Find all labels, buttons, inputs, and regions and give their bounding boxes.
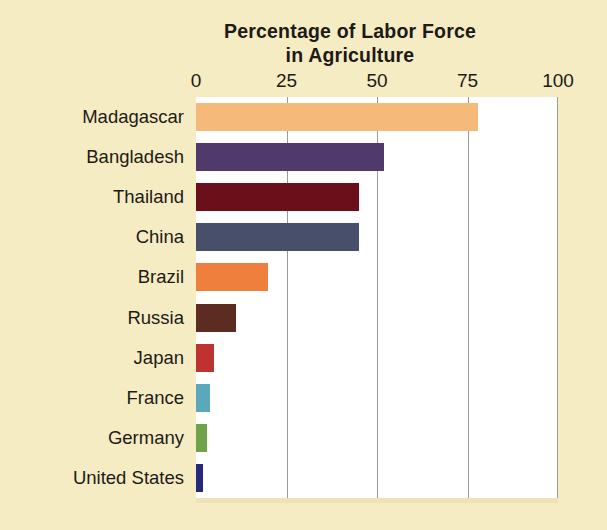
bar-row: [196, 458, 558, 498]
x-tick-label-50: 50: [366, 70, 387, 92]
bar-germany[interactable]: [196, 424, 207, 452]
y-label-united-states: United States: [0, 458, 190, 498]
bar-row: [196, 298, 558, 338]
chart-title: Percentage of Labor Force in Agriculture: [150, 20, 550, 68]
y-label-france: France: [0, 378, 190, 418]
bar-brazil[interactable]: [196, 263, 268, 291]
bar-row: [196, 217, 558, 257]
bar-thailand[interactable]: [196, 183, 359, 211]
x-tick-label-75: 75: [457, 70, 478, 92]
y-label-thailand: Thailand: [0, 177, 190, 217]
chart-title-line-1: Percentage of Labor Force: [150, 20, 550, 44]
bar-row: [196, 378, 558, 418]
y-label-madagascar: Madagascar: [0, 97, 190, 137]
bar-row: [196, 137, 558, 177]
bar-row: [196, 97, 558, 137]
bar-japan[interactable]: [196, 344, 214, 372]
bar-row: [196, 257, 558, 297]
plot-area: [196, 97, 558, 498]
bar-france[interactable]: [196, 384, 210, 412]
x-tick-label-100: 100: [542, 70, 574, 92]
y-label-japan: Japan: [0, 338, 190, 378]
bars-layer: [196, 97, 558, 498]
y-label-russia: Russia: [0, 298, 190, 338]
bar-bangladesh[interactable]: [196, 143, 384, 171]
y-label-brazil: Brazil: [0, 257, 190, 297]
y-label-bangladesh: Bangladesh: [0, 137, 190, 177]
bar-china[interactable]: [196, 223, 359, 251]
bar-chart: Percentage of Labor Force in Agriculture…: [0, 0, 607, 530]
bar-row: [196, 418, 558, 458]
bar-russia[interactable]: [196, 304, 236, 332]
chart-title-line-2: in Agriculture: [150, 44, 550, 68]
plot-bottom-strip: [196, 498, 558, 503]
x-tick-label-25: 25: [276, 70, 297, 92]
x-axis-tick-labels: 0255075100: [0, 70, 607, 96]
bar-madagascar[interactable]: [196, 103, 478, 131]
y-label-china: China: [0, 217, 190, 257]
x-tick-label-0: 0: [191, 70, 202, 92]
bar-united-states[interactable]: [196, 464, 203, 492]
y-label-germany: Germany: [0, 418, 190, 458]
bar-row: [196, 177, 558, 217]
y-axis-category-labels: MadagascarBangladeshThailandChinaBrazilR…: [0, 97, 190, 498]
bar-row: [196, 338, 558, 378]
